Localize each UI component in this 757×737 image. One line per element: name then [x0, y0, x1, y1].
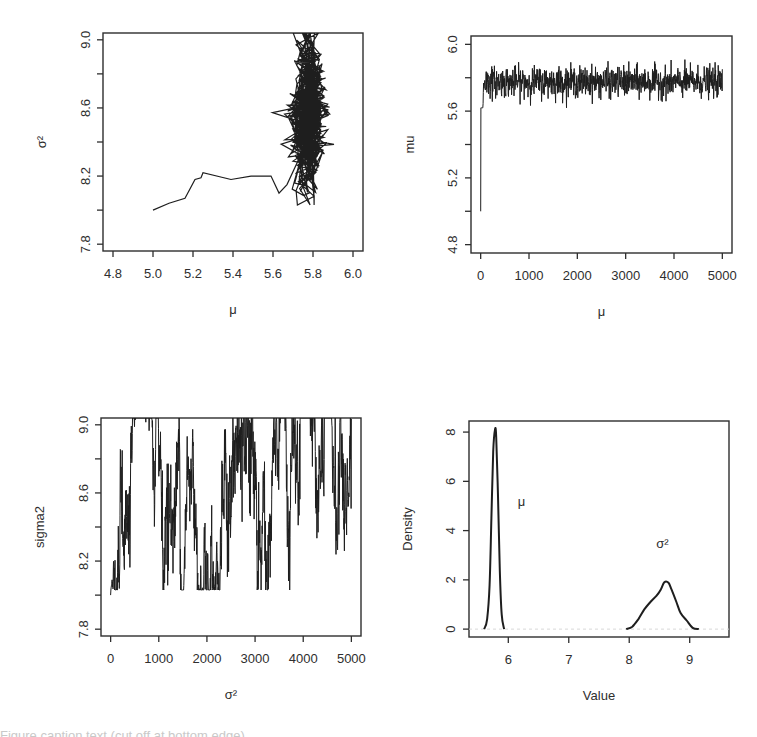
x-tick-label: 4000 — [289, 651, 318, 666]
y-tick-label: 4.8 — [446, 236, 461, 254]
x-axis-title: Value — [583, 688, 615, 703]
x-tick-label: 5.2 — [184, 266, 202, 281]
y-tick-label: 9.0 — [76, 416, 91, 434]
x-tick-label: 2000 — [563, 268, 592, 283]
panel-sigma2-trace: 0100020003000400050007.88.28.69.0σ²sigma… — [32, 416, 366, 702]
x-axis-title: μ — [229, 302, 237, 317]
x-tick-label: 5000 — [337, 651, 366, 666]
y-axis-title: σ² — [34, 135, 49, 148]
x-tick-label: 0 — [477, 268, 484, 283]
y-tick-label: 6 — [444, 478, 459, 485]
x-tick-label: 3000 — [241, 651, 270, 666]
panel-joint-scatter: 4.85.05.25.45.65.86.07.88.28.69.0μσ² — [34, 31, 364, 317]
x-tick-label: 5.0 — [144, 266, 162, 281]
panel-mu-trace: 0100020003000400050004.85.25.66.0μmu — [402, 35, 737, 319]
x-tick-label: 0 — [107, 651, 114, 666]
figure-caption-cutoff: Figure caption text (cut off at bottom e… — [0, 728, 757, 737]
y-tick-label: 9.0 — [78, 31, 93, 49]
x-tick-label: 1000 — [144, 651, 173, 666]
sigma2-curve-label: σ² — [656, 536, 669, 551]
mu-trace-line — [481, 60, 723, 212]
joint-trajectory-line — [153, 33, 334, 210]
x-tick-label: 5000 — [708, 268, 737, 283]
x-tick-label: 7 — [565, 652, 572, 667]
x-tick-label: 6.0 — [344, 266, 362, 281]
y-tick-label: 8.6 — [78, 99, 93, 117]
x-tick-label: 1000 — [515, 268, 544, 283]
y-tick-label: 6.0 — [446, 35, 461, 53]
y-tick-label: 7.8 — [78, 235, 93, 253]
panel-density: 678902468ValueDensityμσ² — [400, 421, 730, 703]
plot-frame — [469, 421, 729, 637]
sigma2-trace-line — [111, 418, 352, 595]
y-tick-label: 4 — [444, 527, 459, 534]
x-tick-label: 9 — [686, 652, 693, 667]
x-tick-label: 4000 — [660, 268, 689, 283]
x-axis-title: μ — [598, 304, 606, 319]
x-tick-label: 5.6 — [264, 266, 282, 281]
x-axis-title: σ² — [225, 687, 238, 702]
mu-density-curve — [484, 428, 504, 629]
x-tick-label: 3000 — [611, 268, 640, 283]
x-tick-label: 8 — [626, 652, 633, 667]
x-tick-label: 5.4 — [224, 266, 242, 281]
y-tick-label: 7.8 — [76, 620, 91, 638]
y-tick-label: 8.2 — [76, 552, 91, 570]
x-tick-label: 2000 — [192, 651, 221, 666]
y-tick-label: 5.6 — [446, 102, 461, 120]
y-tick-label: 8 — [444, 428, 459, 435]
plot-frame — [471, 36, 732, 253]
figure-canvas: 4.85.05.25.45.65.86.07.88.28.69.0μσ² 010… — [0, 0, 757, 737]
y-axis-title: Density — [400, 507, 415, 551]
y-axis-title: mu — [402, 135, 417, 153]
y-tick-label: 8.2 — [78, 167, 93, 185]
sigma2-density-curve — [626, 582, 699, 629]
y-tick-label: 0 — [444, 626, 459, 633]
x-tick-label: 4.8 — [104, 266, 122, 281]
mu-curve-label: μ — [518, 494, 526, 509]
y-tick-label: 8.6 — [76, 484, 91, 502]
y-tick-label: 2 — [444, 576, 459, 583]
x-tick-label: 6 — [505, 652, 512, 667]
x-tick-label: 5.8 — [304, 266, 322, 281]
y-axis-title: sigma2 — [32, 506, 47, 548]
y-tick-label: 5.2 — [446, 169, 461, 187]
